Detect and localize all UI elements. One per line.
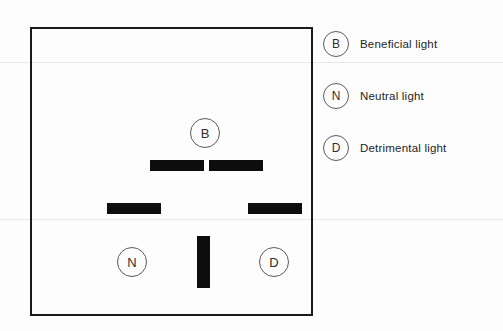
figure-root: B N D B Beneficial light N Neutral light… xyxy=(0,0,503,331)
bar-top-left xyxy=(150,160,204,171)
bar-mid-right xyxy=(248,203,302,214)
legend: B Beneficial light N Neutral light D Det… xyxy=(323,27,499,147)
legend-symbol-beneficial-letter: B xyxy=(332,37,340,51)
marker-beneficial: B xyxy=(190,118,220,148)
legend-label-neutral: Neutral light xyxy=(360,90,424,102)
marker-beneficial-letter: B xyxy=(201,126,210,141)
legend-symbol-neutral-letter: N xyxy=(332,89,341,103)
marker-neutral-letter: N xyxy=(127,255,136,270)
legend-item-beneficial: B Beneficial light xyxy=(323,29,437,59)
legend-label-beneficial: Beneficial light xyxy=(360,38,437,50)
legend-symbol-neutral: N xyxy=(323,83,349,109)
legend-symbol-beneficial: B xyxy=(323,31,349,57)
diagram-frame: B N D xyxy=(30,27,313,316)
legend-item-neutral: N Neutral light xyxy=(323,81,424,111)
legend-label-detrimental: Detrimental light xyxy=(360,142,447,154)
marker-neutral: N xyxy=(117,247,147,277)
bar-mid-left xyxy=(107,203,161,214)
marker-detrimental: D xyxy=(259,247,289,277)
legend-symbol-detrimental-letter: D xyxy=(332,141,341,155)
bar-top-right xyxy=(209,160,263,171)
legend-item-detrimental: D Detrimental light xyxy=(323,133,447,163)
marker-detrimental-letter: D xyxy=(269,255,278,270)
legend-symbol-detrimental: D xyxy=(323,135,349,161)
bar-vertical xyxy=(197,236,210,288)
